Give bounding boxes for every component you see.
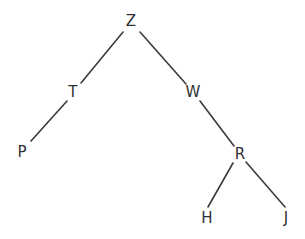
tree-node-j: J	[284, 211, 289, 226]
tree-node-w: W	[185, 85, 200, 100]
tree-edge-r-j	[246, 162, 285, 207]
tree-node-t: T	[68, 85, 77, 100]
tree-node-h: H	[201, 211, 212, 226]
tree-edge-r-h	[208, 163, 233, 207]
tree-edge-z-t	[81, 32, 123, 83]
tree-edge-z-w	[140, 32, 186, 84]
tree-node-r: R	[235, 147, 246, 162]
tree-edges-canvas	[0, 0, 305, 239]
tree-edge-w-r	[200, 101, 234, 146]
binary-tree-diagram: ZTWPRHJ	[0, 0, 305, 239]
tree-edge-t-p	[31, 101, 67, 141]
tree-node-z: Z	[126, 14, 136, 29]
tree-node-p: P	[17, 145, 26, 160]
